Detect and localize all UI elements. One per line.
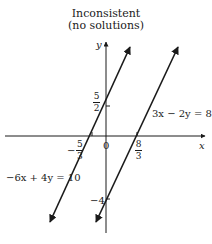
plot-area — [0, 0, 212, 244]
origin-label: 0 — [103, 141, 109, 151]
y-intercept-label-5-2: 5 2 — [93, 92, 100, 113]
fraction-numerator: 5 — [77, 140, 83, 149]
x-intercept-label-8-3: 8 3 — [135, 140, 142, 161]
fraction-numerator: 5 — [94, 92, 100, 101]
fraction-denominator: 3 — [136, 152, 142, 161]
fraction-denominator: 2 — [94, 104, 100, 113]
line-series-2 — [96, 47, 178, 222]
fraction-denominator: 3 — [77, 152, 83, 161]
fraction-numerator: 8 — [136, 140, 142, 149]
y-axis-label: y — [96, 40, 102, 50]
equation-label-series-1: −6x + 4y = 10 — [6, 173, 81, 183]
equation-label-series-2: 3x − 2y = 8 — [152, 109, 212, 119]
x-intercept-label-neg5-3: − 5 3 — [67, 140, 83, 161]
x-axis-label: x — [199, 141, 205, 151]
y-intercept-label-neg4: −4 — [90, 196, 105, 206]
minus-sign: − — [67, 146, 75, 155]
